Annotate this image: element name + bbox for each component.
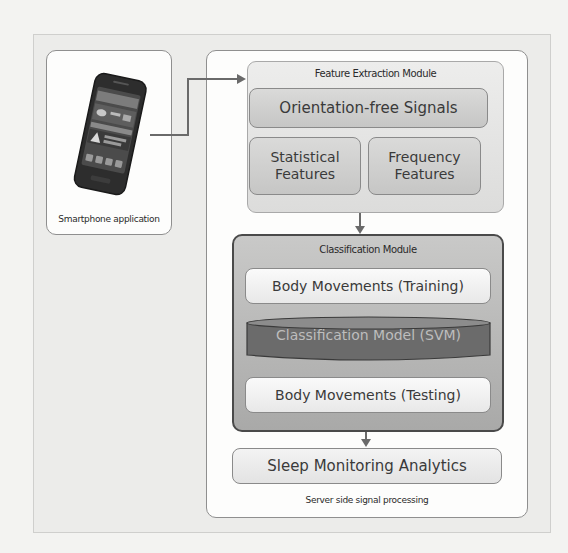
classification-model-label: Classification Model (SVM) [245, 327, 492, 343]
orientation-free-signals-box: Orientation-free Signals [249, 88, 488, 128]
smartphone-label: Smartphone application [46, 214, 172, 224]
phone-to-feature-connector-top [187, 78, 239, 80]
smartphone-icon [70, 70, 150, 200]
statistical-features-box: Statistical Features [249, 137, 361, 195]
feature-extraction-title: Feature Extraction Module [247, 68, 504, 79]
phone-to-feature-connector [150, 134, 188, 136]
body-movements-testing-box: Body Movements (Testing) [245, 377, 491, 413]
arrow-head-down [361, 439, 371, 447]
server-side-caption: Server side signal processing [206, 495, 528, 505]
body-movements-training-box: Body Movements (Training) [245, 268, 491, 304]
arrow-head-right [237, 74, 246, 84]
frequency-features-box: Frequency Features [368, 137, 481, 195]
phone-to-feature-connector-vertical [187, 78, 189, 136]
sleep-monitoring-analytics-box: Sleep Monitoring Analytics [232, 448, 502, 484]
classification-title: Classification Module [232, 244, 504, 255]
arrow-head-down [355, 226, 365, 234]
